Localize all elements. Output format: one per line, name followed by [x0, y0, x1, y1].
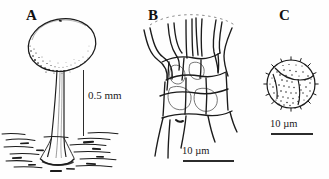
substrate-hatching [2, 133, 118, 168]
spore-spines [264, 57, 318, 111]
scale-bar-a [83, 70, 84, 136]
capillitium-strands [144, 18, 237, 158]
scale-bar-c [271, 133, 313, 135]
panel-a: A [0, 0, 138, 179]
scale-label-c: 10 µm [270, 118, 297, 129]
stalk-fibre-2 [61, 72, 62, 158]
capillitium-mesh-outlines [168, 62, 217, 111]
scale-bar-b [183, 160, 234, 162]
panel-label-c: C [279, 8, 290, 23]
sporangium-head-inner-contour [32, 20, 86, 40]
sporangium-head-stipple [28, 45, 89, 73]
sporangium-stalk-group [40, 70, 75, 165]
figure-plate: A [0, 0, 329, 179]
capillitium-upper-membrane [150, 15, 236, 26]
panel-b: B [138, 0, 246, 179]
panel-c-drawing [246, 0, 329, 179]
sporangium-head-rim-nick [59, 21, 62, 22]
stalk-right-edge [64, 70, 66, 157]
stalk-base-shadow [42, 162, 74, 165]
panel-label-b: B [148, 8, 158, 23]
spore-triradiate-mark [273, 68, 314, 105]
panel-c: C [246, 0, 329, 179]
scale-label-b: 10 µm [182, 145, 209, 156]
panel-label-a: A [26, 8, 37, 23]
scale-label-a: 0.5 mm [88, 89, 122, 101]
substrate-dashes [12, 141, 104, 173]
